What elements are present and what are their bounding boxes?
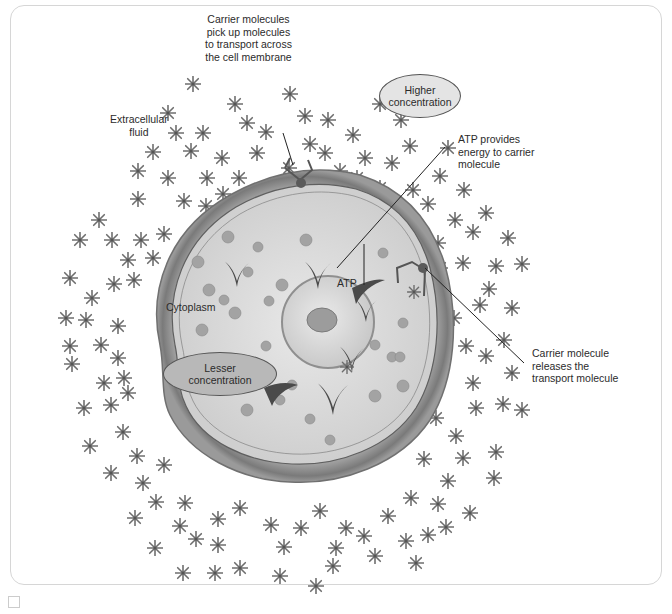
higher-concentration-oval: Higher concentration — [379, 74, 461, 118]
label-carrier-release: Carrier molecule releases the transport … — [532, 347, 618, 385]
cell — [157, 170, 454, 482]
cell-diagram — [0, 0, 672, 614]
figure-corner-mark — [8, 596, 20, 608]
nucleolus — [307, 308, 337, 332]
label-atp-provides: ATP provides energy to carrier molecule — [458, 133, 534, 171]
lesser-concentration-oval: Lesser concentration — [163, 352, 277, 396]
label-carrier-pickup: Carrier molecules pick up molecules to t… — [205, 13, 292, 63]
label-cytoplasm: Cytoplasm — [166, 301, 216, 314]
label-atp: ATP — [337, 277, 357, 290]
label-extracellular-fluid: Extracellular fluid — [110, 113, 168, 138]
